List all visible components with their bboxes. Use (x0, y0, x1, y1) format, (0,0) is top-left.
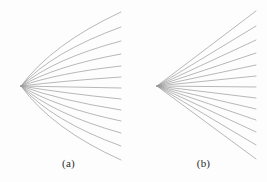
ray-b-6 (157, 86, 256, 87)
panel-a-label: (a) (0, 158, 135, 169)
ray-a-4 (21, 66, 121, 86)
ray-b-2 (157, 40, 256, 86)
ray-bundle-straight (133, 0, 266, 182)
ray-b-9 (157, 86, 256, 120)
ray-b-8 (157, 86, 256, 109)
ray-bundle-curved (0, 0, 133, 182)
ray-b-7 (157, 86, 256, 98)
panel-a: (a) (0, 0, 133, 182)
ray-b-10 (157, 86, 256, 132)
ray-a-2 (21, 41, 121, 86)
ray-a-1 (21, 27, 121, 86)
figure-root: (a) (b) (0, 0, 267, 182)
ray-b-0 (157, 11, 256, 86)
ray-b-1 (157, 26, 256, 86)
ray-a-8 (21, 86, 121, 110)
ray-b-11 (157, 86, 256, 145)
ray-b-12 (157, 86, 256, 159)
ray-a-6 (21, 86, 121, 88)
panel-b-label: (b) (133, 158, 267, 169)
ray-b-4 (157, 65, 256, 86)
panel-b: (b) (133, 0, 266, 182)
